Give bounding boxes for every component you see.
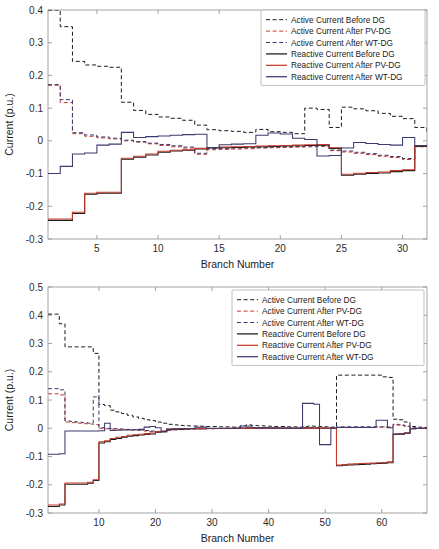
x-tick-label: 60 <box>376 517 388 528</box>
y-tick-label: -0.1 <box>26 451 44 462</box>
x-axis-title: Branch Number <box>201 532 275 544</box>
chart-top-svg: -0.3-0.2-0.100.10.20.30.451015202530Bran… <box>0 0 439 275</box>
y-tick-label: -0.2 <box>26 201 44 212</box>
y-tick-label: 0.4 <box>29 5 43 16</box>
y-tick-label: 0.2 <box>29 366 43 377</box>
x-tick-label: 25 <box>336 243 348 254</box>
figure-container: -0.3-0.2-0.100.10.20.30.451015202530Bran… <box>0 0 439 549</box>
x-tick-label: 30 <box>397 243 409 254</box>
y-tick-label: 0.1 <box>29 103 43 114</box>
x-tick-label: 10 <box>93 517 105 528</box>
x-axis-title: Branch Number <box>201 258 275 270</box>
x-tick-label: 5 <box>94 243 100 254</box>
y-tick-label: -0.1 <box>26 168 44 179</box>
series-line-1 <box>48 85 427 159</box>
legend-label-2: Active Current After WT-DG <box>262 318 364 328</box>
legend-label-5: Reactive Current After WT-DG <box>291 72 403 82</box>
legend-label-5: Reactive Current After WT-DG <box>262 352 374 362</box>
series-line-3 <box>48 428 427 506</box>
legend-label-0: Active Current Before DG <box>291 15 385 25</box>
y-tick-label: 0.2 <box>29 70 43 81</box>
y-tick-label: 0.3 <box>29 338 43 349</box>
y-tick-label: -0.2 <box>26 479 44 490</box>
x-tick-label: 15 <box>214 243 226 254</box>
legend-label-1: Active Current After PV-DG <box>262 306 362 316</box>
y-tick-label: 0.5 <box>29 282 43 293</box>
y-axis-title: Current (p.u.) <box>3 93 15 155</box>
legend-label-4: Reactive Current After PV-DG <box>291 60 401 70</box>
x-tick-label: 40 <box>263 517 275 528</box>
x-tick-label: 50 <box>320 517 332 528</box>
y-tick-label: -0.3 <box>26 508 44 519</box>
series-line-4 <box>48 144 427 219</box>
legend-label-0: Active Current Before DG <box>262 295 356 305</box>
chart-panel-top: -0.3-0.2-0.100.10.20.30.451015202530Bran… <box>0 0 439 275</box>
y-tick-label: 0.1 <box>29 395 43 406</box>
x-tick-label: 10 <box>152 243 164 254</box>
series-line-5 <box>48 132 427 173</box>
series-line-4 <box>48 428 427 505</box>
legend-label-4: Reactive Current After PV-DG <box>262 340 372 350</box>
x-tick-label: 30 <box>206 517 218 528</box>
series-line-3 <box>48 145 427 220</box>
y-tick-label: 0 <box>37 423 43 434</box>
chart-panel-bottom: -0.3-0.2-0.100.10.20.30.40.5102030405060… <box>0 275 439 549</box>
y-axis-title: Current (p.u.) <box>3 369 15 431</box>
x-tick-label: 20 <box>150 517 162 528</box>
legend-label-1: Active Current After PV-DG <box>291 26 391 36</box>
x-tick-label: 20 <box>275 243 287 254</box>
y-tick-label: 0.3 <box>29 37 43 48</box>
y-tick-label: -0.3 <box>26 234 44 245</box>
y-tick-label: 0 <box>37 135 43 146</box>
legend-label-3: Reactive Current Before DG <box>262 329 366 339</box>
legend-label-2: Active Current After WT-DG <box>291 38 393 48</box>
chart-bottom-svg: -0.3-0.2-0.100.10.20.30.40.5102030405060… <box>0 275 439 549</box>
y-tick-label: 0.4 <box>29 310 43 321</box>
legend-label-3: Reactive Current Before DG <box>291 49 395 59</box>
